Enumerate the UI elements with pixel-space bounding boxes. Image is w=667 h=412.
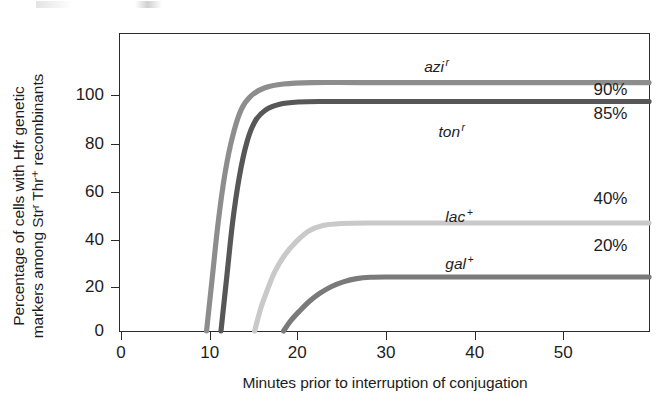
y-tick-100 bbox=[111, 95, 120, 96]
curve-azi bbox=[207, 83, 649, 331]
x-tick-label-0: 0 bbox=[116, 343, 125, 363]
curve-lines bbox=[120, 34, 649, 331]
plateau-label-lac: 40% bbox=[593, 189, 627, 209]
x-tick-label-50: 50 bbox=[554, 343, 573, 363]
x-tick-label-20: 20 bbox=[288, 343, 307, 363]
plateau-label-ton: 85% bbox=[593, 104, 627, 124]
y-tick-label-20: 20 bbox=[85, 277, 104, 297]
curve-label-ton-text: ton bbox=[438, 123, 460, 140]
curve-gal bbox=[284, 277, 649, 331]
y-axis-title: markers among Strʳ Thr⁺ recombinants Per… bbox=[0, 0, 56, 412]
plateau-label-gal: 20% bbox=[593, 236, 627, 256]
x-tick-20 bbox=[297, 331, 298, 340]
y-tick-label-40: 40 bbox=[85, 230, 104, 250]
y-axis-title-line-2: markers among Strʳ Thr⁺ recombinants bbox=[28, 74, 47, 339]
curve-label-azi-sup: r bbox=[446, 56, 450, 68]
curve-label-lac-sup: + bbox=[467, 206, 473, 218]
x-tick-label-30: 30 bbox=[377, 343, 396, 363]
curve-label-gal-text: gal bbox=[445, 255, 466, 272]
y-tick-label-60: 60 bbox=[85, 182, 104, 202]
x-tick-label-40: 40 bbox=[465, 343, 484, 363]
x-tick-30 bbox=[386, 331, 387, 340]
curve-label-azi: azir bbox=[424, 58, 449, 76]
x-tick-10 bbox=[210, 331, 211, 340]
curve-label-ton: tonr bbox=[438, 123, 465, 141]
scan-artifact bbox=[36, 1, 216, 8]
curve-label-lac: lac+ bbox=[445, 208, 472, 226]
x-tick-label-10: 10 bbox=[200, 343, 219, 363]
plateau-label-azi: 90% bbox=[593, 80, 627, 100]
y-tick-label-100: 100 bbox=[76, 85, 104, 105]
x-tick-40 bbox=[475, 331, 476, 340]
y-tick-60 bbox=[111, 192, 120, 193]
x-axis-title: Minutes prior to interruption of conjuga… bbox=[119, 374, 651, 392]
y-tick-label-80: 80 bbox=[85, 134, 104, 154]
plot-area: 100 80 60 40 20 0 0 10 20 30 40 50 azir … bbox=[119, 33, 650, 332]
curve-label-lac-text: lac bbox=[445, 208, 465, 225]
y-axis-title-line-1: Percentage of cells with Hfr genetic bbox=[9, 86, 28, 325]
y-tick-label-0: 0 bbox=[95, 321, 104, 341]
y-tick-40 bbox=[111, 240, 120, 241]
y-tick-80 bbox=[111, 144, 120, 145]
x-tick-50 bbox=[563, 331, 564, 340]
curve-label-ton-sup: r bbox=[462, 121, 466, 133]
curve-ton bbox=[221, 101, 649, 331]
y-tick-20 bbox=[111, 287, 120, 288]
chart-figure: markers among Strʳ Thr⁺ recombinants Per… bbox=[0, 0, 667, 412]
curve-label-azi-text: azi bbox=[424, 58, 444, 75]
x-tick-0 bbox=[121, 331, 122, 340]
curve-label-gal-sup: + bbox=[468, 253, 474, 265]
curve-label-gal: gal+ bbox=[445, 255, 473, 273]
